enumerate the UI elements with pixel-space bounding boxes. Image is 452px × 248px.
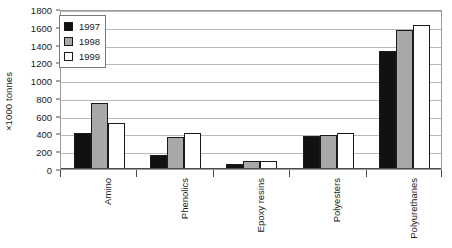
x-axis-category-labels: AminoPhenolicsEpoxy resinsPolyestersPoly… [60,178,442,248]
bar-chart: ×1000 tonnes 020040060080010001200140016… [0,0,452,248]
x-axis-category-label: Phenolics [179,178,190,219]
chart-legend: 199719981999 [59,15,106,68]
bar-1997 [303,136,320,169]
y-axis-tick-label: 1200 [31,58,52,69]
x-axis-tick-mark [366,170,367,177]
bar-1998 [320,135,337,169]
legend-item: 1998 [64,34,100,49]
legend-label: 1998 [79,37,100,47]
y-axis-title-text: ×1000 tonnes [4,71,15,130]
y-axis-tick-label: 1800 [31,5,52,16]
legend-label: 1997 [79,22,100,32]
y-axis-tick-label: 1600 [31,22,52,33]
x-axis-line [61,168,441,169]
x-axis-tick-mark [60,170,61,177]
bar-1997 [74,133,91,169]
bar-1998 [91,103,108,169]
bar-1999 [108,123,125,169]
x-axis-category-label: Amino [102,178,113,205]
legend-item: 1999 [64,49,100,64]
legend-swatch-1997 [64,22,73,31]
bars-layer [61,11,441,169]
bar-group [290,11,366,169]
x-axis-category-label: Polyurethanes [408,178,419,239]
y-axis-tick-label: 800 [36,93,52,104]
legend-label: 1999 [79,52,100,62]
bar-1999 [337,133,354,169]
bar-1997 [379,51,396,169]
x-axis-tick-mark [441,170,442,177]
y-axis-tick-labels: 020040060080010001200140016001800 [18,10,56,170]
y-axis-tick-label: 400 [36,129,52,140]
y-axis-tick-label: 1400 [31,40,52,51]
x-axis-category-label: Epoxy resins [255,178,266,232]
bar-group [214,11,290,169]
y-axis-tick-label: 0 [47,165,52,176]
legend-swatch-1999 [64,52,73,61]
bar-1998 [396,30,413,169]
bar-group [137,11,213,169]
bar-1997 [150,155,167,169]
x-axis-tick-marks [60,170,442,177]
bar-1999 [413,25,430,169]
legend-item: 1997 [64,19,100,34]
x-axis-category-label: Polyesters [331,178,342,222]
legend-swatch-1998 [64,37,73,46]
y-axis-tick-label: 1000 [31,76,52,87]
y-axis-tick-label: 600 [36,111,52,122]
bar-1998 [167,137,184,169]
y-axis-title: ×1000 tonnes [0,46,18,156]
x-axis-tick-mark [213,170,214,177]
x-axis-tick-mark [136,170,137,177]
bar-group [367,11,443,169]
y-axis-tick-label: 200 [36,147,52,158]
plot-area [60,10,442,170]
x-axis-tick-mark [289,170,290,177]
bar-1999 [184,133,201,169]
